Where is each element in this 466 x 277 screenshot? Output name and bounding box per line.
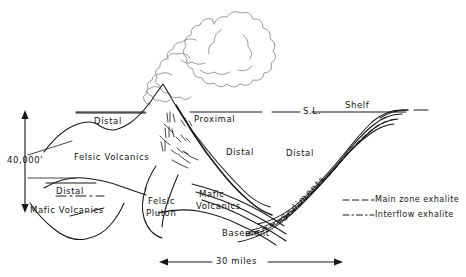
sediment-wedge-top [258,110,408,224]
label-vertical-scale: 40,000' [7,155,43,165]
label-basement: Basement [222,228,270,238]
label-distal-right: Distal [286,148,314,158]
label-sea-level: S.L. [303,106,321,116]
label-distal-left-lower: Distal [56,186,84,196]
label-felsic-pluton-line1: Felsic [148,196,175,206]
eruption-plume-icon [143,12,275,105]
felsic-pluton-left-margin [145,166,156,190]
label-distal-center: Distal [226,147,254,157]
label-mafic-volcanics-center-line2: Volcanics [196,201,241,211]
figure-canvas: S.L. Shelf Distal Proximal Felsic Volcan… [0,0,466,277]
label-proximal: Proximal [194,114,235,124]
legend-label-main-zone-exhalite: Main zone exhalite [375,195,459,204]
label-felsic-pluton-line2: Pluton [146,208,176,218]
label-mafic-volcanics-center-line1: Mafic [199,189,225,199]
label-felsic-volcanics: Felsic Volcanics [74,152,149,162]
feeder-dike-hatching [160,112,198,168]
legend-label-interflow-exhalite: Interflow exhalite [375,210,454,219]
legend-line-samples [343,200,374,215]
label-horizontal-scale: 30 miles [216,256,257,266]
label-shelf: Shelf [345,100,369,110]
label-distal-left-upper: Distal [94,116,122,126]
sea-level-line [76,110,428,112]
label-mafic-volcanics-left: Mafic Volcanics [30,205,104,215]
